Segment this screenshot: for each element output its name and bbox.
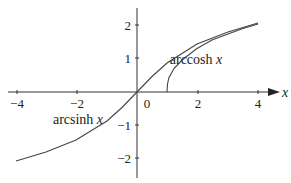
y-tick-label: −2 [117,151,131,166]
arcsinh-label: arcsinh x [53,112,104,127]
arccosh-label: arccosh x [170,52,223,67]
x-tick-label: 2 [195,96,202,111]
x-axis-arrow-icon [268,88,280,96]
x-tick-label: 4 [255,96,262,111]
y-tick-label: 1 [125,51,132,66]
x-tick-label: −2 [70,96,84,111]
x-tick-label: −4 [10,96,24,111]
origin-label: 0 [144,96,151,111]
x-axis-label: x [281,85,289,100]
plot-area: −4 −2 0 2 4 x 2 1 −1 −2 arccosh x arcsin… [0,0,291,183]
y-tick-label: −1 [117,118,131,133]
chart: −4 −2 0 2 4 x 2 1 −1 −2 arccosh x arcsin… [0,0,291,183]
y-tick-label: 2 [125,18,132,33]
